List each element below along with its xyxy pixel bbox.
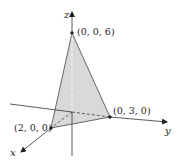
shaded-triangle-plane	[51, 33, 110, 128]
y-axis-label: y	[164, 125, 171, 136]
point-0-0-6	[70, 31, 73, 34]
x-axis-label: x	[10, 147, 16, 158]
diagram-canvas: z y x (0, 0, 6) (0, 3, 0) (2, 0, 0)	[0, 0, 181, 163]
point-0-3-0	[108, 115, 111, 118]
point-label-0-0-6: (0, 0, 6)	[77, 26, 115, 37]
y-axis-front	[110, 117, 167, 122]
point-label-2-0-0: (2, 0, 0)	[14, 122, 52, 133]
point-label-0-3-0: (0, 3, 0)	[113, 105, 151, 116]
z-axis-label: z	[63, 9, 70, 20]
